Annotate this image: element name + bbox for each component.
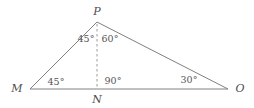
- vertex-label-M: M: [11, 83, 22, 94]
- triangle-svg: [0, 0, 254, 108]
- vertex-label-N: N: [92, 94, 102, 105]
- angle-label-PMN: 45°: [48, 77, 65, 87]
- angle-label-POM: 30°: [181, 75, 198, 85]
- vertex-label-O: O: [235, 83, 244, 94]
- angle-label-MPN: 45°: [78, 34, 95, 44]
- angle-label-PNO: 90°: [105, 76, 122, 86]
- geometry-diagram: M N O P 45° 60° 45° 90° 30°: [0, 0, 254, 108]
- vertex-label-P: P: [93, 6, 100, 17]
- angle-label-NPO: 60°: [102, 34, 119, 44]
